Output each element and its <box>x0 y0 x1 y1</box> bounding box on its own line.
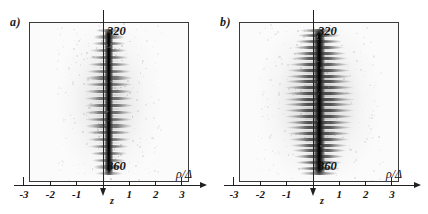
panel-b-dither-speck <box>271 37 272 38</box>
panel-a-dither-speck <box>108 120 109 121</box>
panel-b-x-tick-label: -2 <box>251 189 269 200</box>
panel-b-x-tick <box>286 181 287 185</box>
panel-a-dither-speck <box>114 87 116 89</box>
panel-b-dither-speck <box>279 83 281 85</box>
panel-b-dither-speck <box>299 133 301 135</box>
panel-b-dither-speck <box>367 58 368 59</box>
panel-b-dither-speck <box>268 118 270 120</box>
panel-b-x-tick <box>391 177 392 185</box>
panel-a-dither-speck <box>90 112 92 114</box>
panel-b-dither-speck <box>275 33 277 35</box>
panel-a-dither-speck <box>86 114 88 116</box>
panel-a-x-tick-label: 1 <box>120 189 138 200</box>
panel-b-dither-speck <box>296 93 298 95</box>
panel-b-dither-speck <box>368 125 369 126</box>
panel-b-z-axis-label: z <box>320 196 324 206</box>
panel-b-dither-speck <box>305 76 307 78</box>
panel-b-annotation-bottom: 360 <box>318 160 337 173</box>
panel-a-dither-speck <box>142 62 143 63</box>
panel-a-dither-speck <box>117 89 118 90</box>
panel-b-dither-speck <box>258 135 259 136</box>
panel-b-dither-speck <box>277 31 279 33</box>
panel-b-dither-speck <box>278 56 280 58</box>
panel-b-dither-speck <box>290 69 291 70</box>
panel-a-dither-speck <box>156 71 157 72</box>
panel-a-dither-speck <box>78 164 79 165</box>
panel-b-dither-speck <box>322 50 323 51</box>
panel-b-dither-speck <box>260 160 261 161</box>
panel-a-x-tick-label: -2 <box>41 189 59 200</box>
panel-b-dither-speck <box>264 158 266 160</box>
panel-a-dither-speck <box>68 180 70 182</box>
panel-b-dither-speck <box>366 94 367 95</box>
panel-b-dither-speck <box>293 110 294 111</box>
panel-b-dither-speck <box>379 178 380 179</box>
panel-a-dither-speck <box>70 114 72 116</box>
panel-a-dither-speck <box>152 137 154 139</box>
panel-b-dither-speck <box>371 114 373 116</box>
panel-b-x-tick <box>365 181 366 185</box>
panel-a-dither-speck <box>155 41 156 42</box>
panel-b-dither-speck <box>270 134 272 136</box>
panel-a-dither-speck <box>121 45 123 47</box>
panel-a-dither-speck <box>93 56 94 57</box>
panel-a-dither-speck <box>88 43 89 44</box>
panel-b-dither-speck <box>304 85 305 86</box>
panel-a-dither-speck <box>84 173 85 174</box>
panel-b-letter: b) <box>220 16 231 28</box>
panel-a-dither-speck <box>109 46 111 48</box>
panel-a-annotation-top: 320 <box>107 25 126 38</box>
panel-a-dither-speck <box>135 165 137 167</box>
panel-a-dither-speck <box>60 34 62 36</box>
panel-b-dither-speck <box>324 63 325 64</box>
panel-b-dither-speck <box>356 33 357 34</box>
panel-b-dither-speck <box>355 159 357 161</box>
panel-a-dither-speck <box>157 171 159 173</box>
panel-a-dither-speck <box>69 101 70 102</box>
panel-b-dither-speck <box>349 75 350 76</box>
panel-a-z-axis-label: z <box>110 196 114 206</box>
panel-b-dither-speck <box>315 100 317 102</box>
panel-b-dither-speck <box>320 67 322 69</box>
panel-a-x-axis <box>14 185 202 186</box>
panel-b-dither-speck <box>334 134 336 136</box>
panel-a-dither-speck <box>157 25 159 27</box>
panel-a-dither-speck <box>136 99 138 101</box>
panel-a-dither-speck <box>62 144 63 145</box>
panel-a-dither-speck <box>68 95 69 96</box>
panel-b-dither-speck <box>270 24 272 26</box>
panel-b-dither-speck <box>348 93 349 94</box>
panel-b-dither-speck <box>273 116 274 117</box>
panel-a-dither-speck <box>58 162 60 164</box>
panel-b-dither-speck <box>326 72 328 74</box>
panel-b-dither-speck <box>291 134 292 135</box>
panel-a-dither-speck <box>60 33 61 34</box>
panel-a-dither-speck <box>127 94 128 95</box>
panel-a-dither-speck <box>71 64 72 65</box>
panel-a-dither-speck <box>137 110 139 112</box>
panel-a-x-axis-label: ρ/Δ <box>176 168 192 180</box>
panel-a-dither-speck <box>135 37 136 38</box>
panel-a-dither-speck <box>148 168 149 169</box>
panel-a-letter: a) <box>10 16 21 28</box>
panel-b-dither-speck <box>266 58 268 60</box>
panel-b-dither-speck <box>374 115 375 116</box>
panel-b-dither-speck <box>336 117 338 119</box>
panel-b-z-axis <box>313 10 314 190</box>
panel-a-x-tick <box>76 181 77 185</box>
panel-a-dither-speck <box>161 32 162 33</box>
panel-b-dither-speck <box>304 31 305 32</box>
panel-b-dither-speck <box>293 95 294 96</box>
panel-a-dither-speck <box>57 28 59 30</box>
panel-a-dither-speck <box>83 83 85 85</box>
panel-a-dither-speck <box>77 32 78 33</box>
panel-b-dither-speck <box>353 51 355 53</box>
panel-a-dither-speck <box>154 170 156 172</box>
panel-a-dither-speck <box>76 55 78 57</box>
panel-a-dither-speck <box>107 82 108 83</box>
panel-b-dither-speck <box>379 149 380 150</box>
panel-b-dither-speck <box>261 108 263 110</box>
panel-b-x-tick <box>233 177 234 185</box>
figure-two-panel-density-plots: a) 320 360 z ρ/Δ -3-2-1123 b) 320 360 z … <box>0 0 428 214</box>
panel-b-dither-speck <box>357 157 358 158</box>
